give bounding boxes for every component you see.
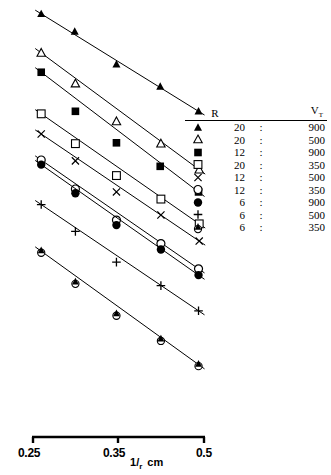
- x-axis-tick-labels: 0.25 0.35 0.5: [0, 446, 331, 462]
- data-point-filled-circle: [112, 221, 120, 229]
- data-point-filled-circle: [37, 160, 45, 168]
- data-point-cross-x: [113, 188, 120, 195]
- legend-r-value: 12: [211, 146, 249, 158]
- series-R12-V500: [35, 130, 205, 245]
- data-point-filled-circle: [71, 189, 79, 197]
- legend-marker-open-triangle-icon: [185, 133, 211, 146]
- data-point-filled-triangle: [112, 60, 120, 67]
- legend-marker-cross-x-icon: [185, 171, 211, 184]
- data-point-open-square: [113, 172, 121, 180]
- legend-separator: :: [249, 184, 273, 196]
- legend: R VT 20:90020:50012:90020:35012:50012:35…: [185, 104, 327, 234]
- legend-row: 6:500: [185, 209, 327, 222]
- data-point-filled-triangle: [71, 27, 79, 34]
- data-point-open-square: [72, 140, 80, 148]
- legend-row: 20:350: [185, 159, 327, 172]
- legend-row: 12:350: [185, 184, 327, 197]
- data-point-plus: [194, 307, 203, 316]
- legend-v-value: 350: [273, 221, 327, 233]
- legend-separator: :: [249, 209, 273, 221]
- trendline: [35, 10, 204, 115]
- data-point-filled-square: [72, 108, 80, 116]
- legend-row: 6:350: [185, 221, 327, 234]
- data-series-layer: [35, 10, 205, 370]
- data-point-plus: [157, 281, 166, 290]
- legend-marker-filled-triangle-icon: [185, 121, 211, 134]
- trendline: [35, 130, 205, 245]
- legend-v-value: 500: [273, 171, 327, 183]
- legend-v-value: 500: [273, 134, 327, 146]
- data-point-filled-circle: [157, 245, 165, 253]
- x-tick-label-0: 0.25: [18, 446, 40, 460]
- legend-separator: :: [249, 146, 273, 158]
- legend-r-value: 20: [211, 134, 249, 146]
- data-point-open-triangle: [112, 117, 120, 125]
- data-point-plus: [112, 258, 121, 267]
- data-point-cross-x: [157, 211, 164, 218]
- data-point-filled-square: [37, 68, 45, 76]
- legend-r-value: 6: [211, 209, 249, 221]
- x-axis-title: 1/rcm: [130, 455, 163, 471]
- legend-r-value: 12: [211, 171, 249, 183]
- legend-header-v-subscript: T: [319, 111, 323, 119]
- legend-r-value: 12: [211, 184, 249, 196]
- x-tick-label-2: 0.5: [196, 446, 212, 460]
- series-R6-V350: [35, 247, 204, 370]
- data-point-filled-square: [113, 139, 121, 147]
- plot-canvas: [0, 0, 331, 475]
- legend-header-v-text: V: [311, 104, 319, 116]
- x-axis: [32, 437, 205, 443]
- legend-separator: :: [249, 134, 273, 146]
- figure-container: 0.25 0.35 0.5 1/rcm R VT 20:90020:50012:…: [0, 0, 331, 475]
- legend-r-value: 6: [211, 196, 249, 208]
- legend-marker-filled-square-icon: [185, 146, 211, 159]
- legend-separator: :: [249, 171, 273, 183]
- legend-marker-open-circle-icon: [185, 183, 211, 196]
- legend-row: 20:500: [185, 134, 327, 147]
- legend-marker-plus-icon: [185, 208, 211, 221]
- legend-rows: 20:90020:50012:90020:35012:50012:3506:90…: [185, 121, 327, 234]
- legend-row: 6:900: [185, 196, 327, 209]
- x-tick-label-1: 0.35: [103, 446, 125, 460]
- data-point-plus: [37, 200, 46, 209]
- legend-v-value: 350: [273, 184, 327, 196]
- series-R20-V350: [35, 110, 205, 228]
- axis-title-unit: cm: [147, 456, 163, 468]
- data-point-filled-square: [156, 163, 164, 171]
- legend-row: 12:500: [185, 171, 327, 184]
- legend-v-value: 900: [273, 196, 327, 208]
- data-point-open-triangle: [37, 49, 45, 57]
- legend-separator: :: [249, 121, 273, 133]
- legend-header-r: R: [185, 107, 245, 119]
- legend-r-value: 20: [211, 121, 249, 133]
- legend-separator: :: [249, 196, 273, 208]
- series-R20-V900: [35, 10, 204, 115]
- data-point-cross-x: [72, 157, 79, 164]
- data-point-triangle-on-circle: [195, 360, 202, 370]
- data-point-open-square: [157, 195, 165, 203]
- legend-row: 12:900: [185, 146, 327, 159]
- trendline: [35, 247, 204, 369]
- data-point-open-square: [37, 110, 45, 118]
- legend-marker-open-square-icon: [185, 158, 211, 171]
- legend-v-value: 500: [273, 209, 327, 221]
- legend-marker-filled-circle-icon: [185, 196, 211, 209]
- data-point-cross-x: [196, 237, 203, 244]
- legend-separator: :: [249, 221, 273, 233]
- legend-r-value: 20: [211, 159, 249, 171]
- data-point-filled-triangle: [37, 10, 45, 17]
- legend-separator: :: [249, 159, 273, 171]
- data-point-triangle-on-circle: [113, 310, 120, 320]
- legend-header-row: R VT: [185, 104, 327, 119]
- legend-header-v: VT: [245, 104, 327, 119]
- legend-v-value: 900: [273, 146, 327, 158]
- legend-v-value: 350: [273, 159, 327, 171]
- legend-r-value: 6: [211, 221, 249, 233]
- data-point-triangle-on-circle: [72, 278, 79, 288]
- data-point-plus: [71, 227, 80, 236]
- legend-row: 20:900: [185, 121, 327, 134]
- legend-marker-triangle-on-circle-icon: [185, 221, 211, 234]
- data-point-triangle-on-circle: [38, 247, 45, 257]
- trendline: [35, 110, 205, 228]
- axis-title-denominator: r: [139, 462, 142, 471]
